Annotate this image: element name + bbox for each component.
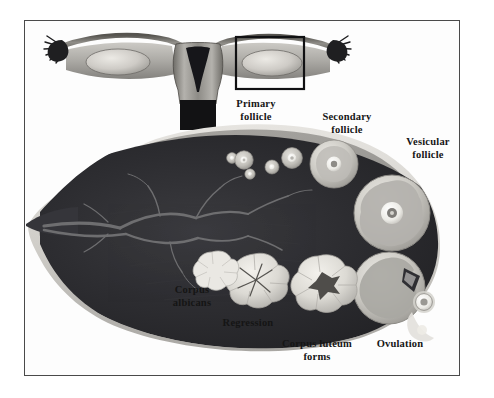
label-corpus-albicans: Corpus albicans (158, 284, 226, 309)
label-secondary-follicle: Secondary follicle (310, 111, 384, 136)
label-vesicular-follicle: Vesicular follicle (392, 136, 464, 161)
figure-root: Primary follicle Secondary follicle Vesi… (0, 0, 494, 398)
label-ovulation: Ovulation (366, 338, 434, 351)
label-primary-follicle: Primary follicle (222, 98, 290, 123)
label-corpus-luteum-forms: Corpus luteum forms (272, 338, 362, 363)
label-regression: Regression (212, 317, 284, 330)
